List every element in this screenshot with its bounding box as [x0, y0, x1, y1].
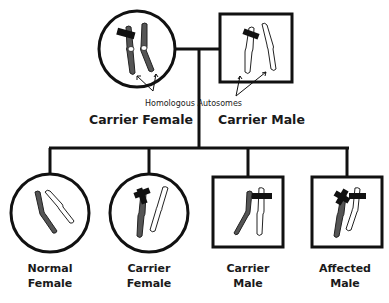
child1-label-line2: Female	[28, 277, 73, 290]
child2-label-line2: Female	[127, 277, 172, 290]
child3-label-line1: Carrier	[226, 262, 270, 275]
carrier-male-label: Carrier Male	[218, 112, 305, 127]
carrier-female-label: Carrier Female	[89, 112, 193, 127]
affected-male-child	[312, 177, 382, 247]
carrier-female-child	[110, 174, 188, 252]
pedigree-diagram: Homologous Autosomes Carrier Female Carr…	[0, 0, 389, 303]
child2-label-line1: Carrier	[127, 262, 171, 275]
carrier-female-parent	[99, 11, 175, 91]
child4-label-line1: Affected	[319, 262, 371, 275]
carrier-male-child	[213, 177, 283, 247]
child3-label-line2: Male	[233, 277, 263, 290]
child1-label-line1: Normal	[28, 262, 73, 275]
carrier-male-parent	[220, 14, 292, 96]
homologous-autosomes-annotation: Homologous Autosomes	[145, 99, 242, 108]
normal-female-child	[11, 174, 89, 252]
child4-label-line2: Male	[330, 277, 360, 290]
